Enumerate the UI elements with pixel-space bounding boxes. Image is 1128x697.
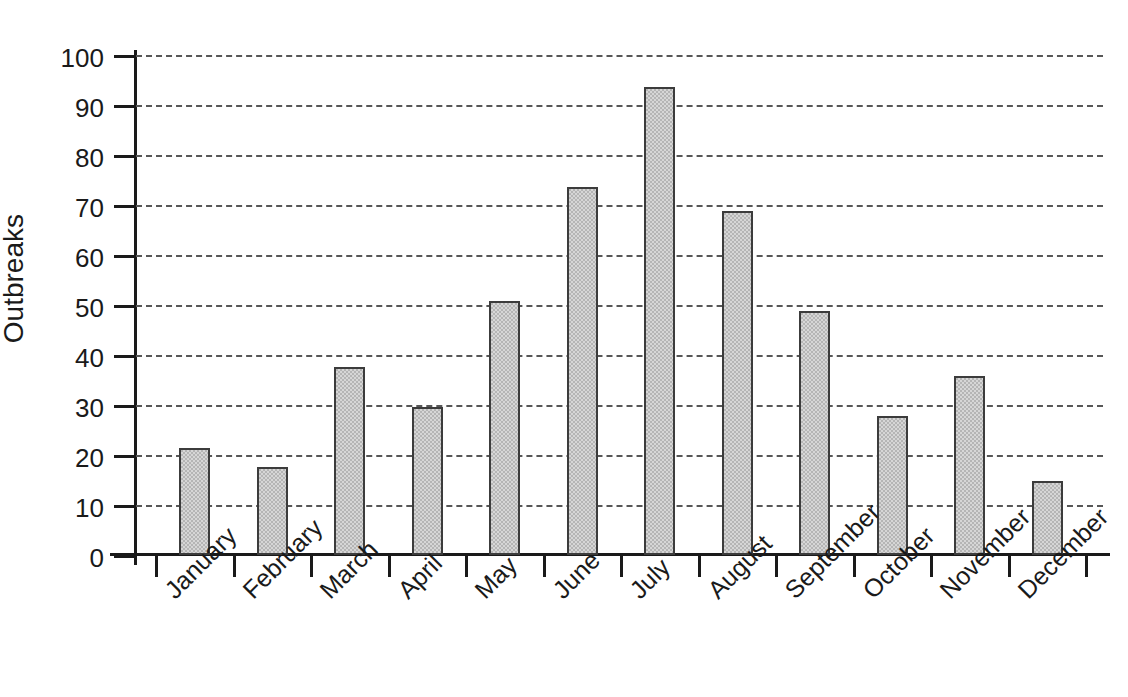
gridline [136,205,1103,207]
x-tick [1085,555,1088,577]
y-tick: 10 [114,505,136,508]
gridline [136,355,1103,357]
bar [722,211,753,555]
y-tick-label: 50 [75,293,104,324]
bar [567,187,598,555]
gridline [136,55,1103,57]
x-tick [698,555,701,577]
x-tick [620,555,623,577]
y-tick: 0 [114,555,136,558]
y-tick: 40 [114,355,136,358]
gridline [136,105,1103,107]
x-tick-label: April [392,549,448,605]
y-tick-label: 10 [75,493,104,524]
bar [412,407,443,556]
x-tick [775,555,778,577]
y-tick-label: 60 [75,243,104,274]
chart-figure: Outbreaks 0102030405060708090100 January… [0,0,1128,697]
gridline [136,255,1103,257]
x-tick [853,555,856,577]
y-tick-label: 90 [75,93,104,124]
plot-area: 0102030405060708090100 [136,55,1103,555]
y-tick-label: 0 [90,543,104,574]
bar [334,367,365,555]
y-tick: 50 [114,305,136,308]
bar [644,87,675,556]
bar [877,416,908,555]
y-tick-label: 40 [75,343,104,374]
y-tick-label: 70 [75,193,104,224]
x-tick [233,555,236,577]
x-tick [1008,555,1011,577]
x-tick-label: July [624,553,676,605]
y-axis-title: Outbreaks [0,214,30,343]
bar [489,301,520,555]
x-tick [465,555,468,577]
x-tick [543,555,546,577]
x-tick [155,555,158,577]
y-tick: 90 [114,105,136,108]
gridline [136,155,1103,157]
y-tick: 60 [114,255,136,258]
bar [954,376,985,556]
y-tick-label: 20 [75,443,104,474]
x-tick [930,555,933,577]
y-tick-label: 80 [75,143,104,174]
x-tick [310,555,313,577]
y-tick-label: 100 [61,43,104,74]
x-tick-label: May [469,551,523,605]
y-tick: 30 [114,405,136,408]
y-tick: 70 [114,205,136,208]
x-tick [388,555,391,577]
y-tick-label: 30 [75,393,104,424]
bar [799,311,830,556]
y-tick: 100 [114,55,136,58]
y-tick: 80 [114,155,136,158]
y-tick: 20 [114,455,136,458]
gridline [136,305,1103,307]
